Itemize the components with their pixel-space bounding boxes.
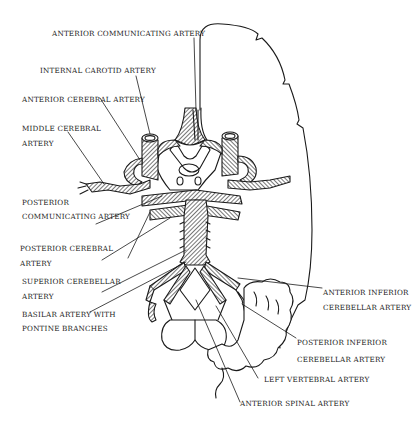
diagram-canvas: ANTERIOR COMMUNICATING ARTERY INTERNAL C… xyxy=(0,0,419,427)
label-text: ANTERIOR CEREBRAL ARTERY xyxy=(22,94,145,105)
label-middle-cerebral-artery: MIDDLE CEREBRAL ARTERY xyxy=(22,121,101,151)
label-text: INTERNAL CAROTID ARTERY xyxy=(40,65,156,76)
label-text: SUPERIOR CEREBELLAR xyxy=(22,274,121,289)
label-anterior-inferior-cerebellar-artery: ANTERIOR INFERIOR CEREBELLAR ARTERY xyxy=(323,285,411,315)
label-text: MIDDLE CEREBRAL xyxy=(22,121,101,136)
label-text: ANTERIOR SPINAL ARTERY xyxy=(240,398,349,409)
label-text: ARTERY xyxy=(22,136,101,151)
label-text: ANTERIOR COMMUNICATING ARTERY xyxy=(52,28,205,39)
label-posterior-communicating-artery: POSTERIOR COMMUNICATING ARTERY xyxy=(22,196,130,224)
label-internal-carotid-artery: INTERNAL CAROTID ARTERY xyxy=(40,65,156,76)
label-basilar-artery: BASILAR ARTERY WITH PONTINE BRANCHES xyxy=(22,308,116,336)
label-text: PONTINE BRANCHES xyxy=(22,322,116,336)
label-text: CEREBELLAR ARTERY xyxy=(297,351,387,368)
label-text: POSTERIOR xyxy=(22,196,130,210)
label-posterior-cerebral-artery: POSTERIOR CEREBRAL ARTERY xyxy=(20,241,113,271)
label-anterior-communicating-artery: ANTERIOR COMMUNICATING ARTERY xyxy=(52,28,205,39)
label-text: CEREBELLAR ARTERY xyxy=(323,300,411,315)
label-text: COMMUNICATING ARTERY xyxy=(22,210,130,224)
label-posterior-inferior-cerebellar-artery: POSTERIOR INFERIOR CEREBELLAR ARTERY xyxy=(297,334,387,368)
label-text: LEFT VERTEBRAL ARTERY xyxy=(264,374,369,385)
label-anterior-cerebral-artery: ANTERIOR CEREBRAL ARTERY xyxy=(22,94,145,105)
label-text: POSTERIOR CEREBRAL xyxy=(20,241,113,256)
label-anterior-spinal-artery: ANTERIOR SPINAL ARTERY xyxy=(240,398,349,409)
label-text: BASILAR ARTERY WITH xyxy=(22,308,116,322)
label-text: POSTERIOR INFERIOR xyxy=(297,334,387,351)
label-text: ARTERY xyxy=(20,256,113,271)
label-text: ANTERIOR INFERIOR xyxy=(323,285,411,300)
label-text: ARTERY xyxy=(22,289,121,304)
label-superior-cerebellar-artery: SUPERIOR CEREBELLAR ARTERY xyxy=(22,274,121,304)
label-left-vertebral-artery: LEFT VERTEBRAL ARTERY xyxy=(264,374,369,385)
